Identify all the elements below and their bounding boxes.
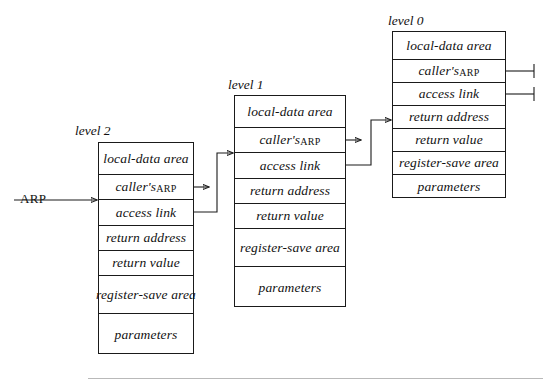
cell-return-value: return value: [99, 251, 193, 276]
diagram-canvas: level 2 local-data area caller's ARP acc…: [0, 0, 559, 390]
callers-arp-acronym: ARP: [300, 132, 320, 149]
cell-return-address: return address: [99, 226, 193, 251]
cell-parameters: parameters: [235, 267, 345, 308]
cell-return-value: return value: [393, 129, 505, 152]
callers-arp-acronym: ARP: [156, 179, 176, 196]
level-1-title: level 1: [228, 77, 264, 93]
bottom-divider-rule: [88, 378, 543, 379]
callers-arp-text: caller's: [115, 179, 156, 195]
callers-arp-text: caller's: [418, 63, 459, 79]
activation-record-level-0: local-data area caller's ARP access link…: [392, 31, 506, 198]
cell-access-link: access link: [99, 200, 193, 226]
cell-callers-arp: caller's ARP: [235, 128, 345, 153]
activation-record-level-1: local-data area caller's ARP access link…: [234, 95, 346, 307]
callers-arp-text: caller's: [259, 132, 300, 148]
callers-arp-acronym: ARP: [459, 63, 479, 80]
cell-parameters: parameters: [393, 175, 505, 199]
cell-callers-arp: caller's ARP: [99, 175, 193, 200]
cell-local-data-area: local-data area: [393, 32, 505, 60]
cell-return-address: return address: [393, 106, 505, 129]
cell-parameters: parameters: [99, 314, 193, 355]
cell-register-save-area: register-save area: [99, 276, 193, 314]
cell-register-save-area: register-save area: [393, 152, 505, 175]
cell-local-data-area: local-data area: [99, 143, 193, 175]
level-0-title: level 0: [388, 13, 424, 29]
activation-record-level-2: local-data area caller's ARP access link…: [98, 142, 194, 354]
cell-return-value: return value: [235, 204, 345, 229]
cell-callers-arp: caller's ARP: [393, 60, 505, 83]
cell-local-data-area: local-data area: [235, 96, 345, 128]
access-link-wire-level1-to-level0: [346, 120, 391, 165]
cell-register-save-area: register-save area: [235, 229, 345, 267]
level-2-title: level 2: [75, 123, 111, 139]
cell-access-link: access link: [393, 83, 505, 106]
cell-access-link: access link: [235, 153, 345, 179]
cell-return-address: return address: [235, 179, 345, 204]
access-link-wire-level2-to-level1: [194, 153, 233, 212]
entry-arp-label: ARP: [20, 191, 47, 207]
